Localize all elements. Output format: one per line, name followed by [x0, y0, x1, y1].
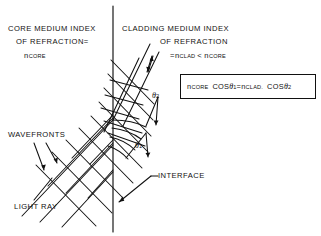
incident-ray: [66, 143, 113, 193]
theta2-subscript: 2: [156, 93, 159, 99]
optics-refraction-diagram: CORE MEDIUM INDEX OF REFRACTION= nCORE C…: [0, 0, 321, 236]
eq-cos2: COS: [263, 82, 284, 91]
eq-cos1: COS: [208, 82, 229, 91]
core-n-subscript: CORE: [29, 53, 46, 59]
wavefront-line: [110, 80, 148, 90]
incident-ray: [90, 140, 113, 164]
interface-leader: [119, 176, 151, 202]
theta1-tick: [146, 153, 151, 157]
wavefront-line: [101, 108, 139, 119]
eq-theta2-subscript: 2: [288, 84, 291, 90]
cladding-index-inequality: =nCLAD<nCORE: [170, 52, 226, 60]
clad-compare-op: <: [195, 51, 204, 60]
eq-n1-subscript: CORE: [191, 84, 208, 90]
core-medium-label-line1: CORE MEDIUM INDEX: [8, 25, 96, 33]
core-index-symbol: nCORE: [24, 52, 46, 60]
core-medium-label-line2: OF REFRACTION=: [16, 38, 89, 46]
diagram-canvas: [0, 0, 321, 236]
transmitted-ray: [104, 58, 139, 132]
equation-box: nCORECOSθ1=nCLAD.COSθ2: [180, 74, 316, 99]
light-ray-label: LIGHT RAY: [14, 203, 57, 211]
wavefront-arc: [108, 146, 128, 159]
cladding-medium-label-line1: CLADDING MEDIUM INDEX: [122, 25, 229, 33]
theta2-tick: [154, 120, 159, 125]
theta2-angle-marker: [146, 97, 159, 126]
wavefronts-label: WAVEFRONTS: [8, 131, 65, 139]
clad-n1-subscript: CLAD: [180, 53, 196, 59]
light-ray-leader-group: [34, 178, 52, 200]
interface-leader-group: [119, 176, 158, 202]
theta1-subscript: 1: [139, 143, 142, 149]
snell-equation: nCORECOSθ1=nCLAD.COSθ2: [187, 82, 291, 91]
interface-label: INTERFACE: [158, 172, 205, 180]
clad-n2-subscript: CORE: [209, 53, 226, 59]
arrowhead: [119, 197, 124, 202]
light-ray-leader: [34, 178, 52, 200]
cladding-medium-label-line2: OF REFRACTION: [160, 38, 228, 46]
eq-n2-subscript: CLAD.: [246, 84, 263, 90]
theta1-label: θ1: [135, 142, 142, 150]
theta2-label: θ2: [152, 92, 159, 100]
